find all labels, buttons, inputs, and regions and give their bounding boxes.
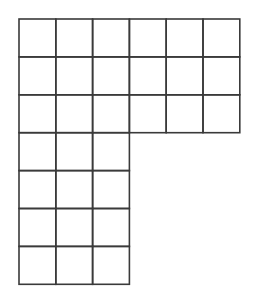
grid-cell (203, 19, 240, 57)
grid-cell (56, 57, 93, 95)
grid-cell (93, 19, 130, 57)
grid-cell (93, 57, 130, 95)
grid-cell (19, 57, 56, 95)
grid-cell (93, 95, 130, 133)
l-shaped-grid (0, 0, 255, 297)
grid-cell (93, 246, 130, 284)
grid-cell (166, 95, 203, 133)
grid-cell (129, 95, 166, 133)
grid-cell (203, 57, 240, 95)
grid-cell (19, 19, 56, 57)
grid-cell (129, 57, 166, 95)
grid-cell (93, 171, 130, 209)
grid-cell (19, 133, 56, 171)
grid-cell (19, 209, 56, 247)
grid-cell (93, 133, 130, 171)
grid-cell (203, 95, 240, 133)
grid-cell (56, 209, 93, 247)
grid-cell (56, 95, 93, 133)
grid-cell (166, 57, 203, 95)
grid-cell (129, 19, 166, 57)
grid-cell (19, 95, 56, 133)
top-block (19, 19, 240, 133)
bottom-block (19, 133, 129, 285)
grid-cell (56, 246, 93, 284)
grid-cell (93, 209, 130, 247)
grid-cell (19, 171, 56, 209)
grid-cell (166, 19, 203, 57)
grid-cell (19, 246, 56, 284)
grid-cell (56, 171, 93, 209)
grid-cell (56, 133, 93, 171)
grid-cell (56, 19, 93, 57)
